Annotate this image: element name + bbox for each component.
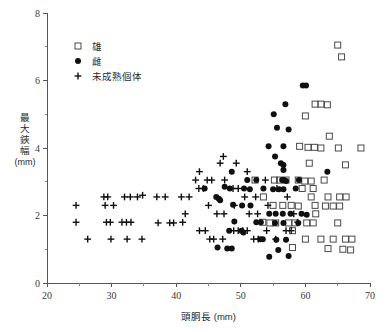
data-point <box>244 177 250 183</box>
data-point <box>340 246 346 252</box>
data-point <box>139 236 146 243</box>
data-point <box>73 202 80 209</box>
data-point <box>73 219 80 226</box>
axis-title-group: 頭胴長 (mm) <box>181 311 236 322</box>
data-point <box>348 247 354 253</box>
data-point <box>233 160 240 167</box>
data-point <box>182 210 189 217</box>
data-point <box>263 227 270 234</box>
data-point <box>84 236 91 243</box>
scatter-plot-figure: 02468203040506070 雄雌未成熟個体 頭胴長 (mm) 最 大 鋏… <box>0 0 387 332</box>
data-point <box>178 194 185 201</box>
data-point <box>318 236 324 242</box>
data-point <box>162 194 169 201</box>
data-point <box>324 102 330 108</box>
data-point <box>337 203 343 209</box>
data-point <box>325 246 331 252</box>
data-point <box>299 186 305 192</box>
data-point <box>313 211 319 217</box>
data-point <box>213 210 220 217</box>
data-point <box>260 194 266 200</box>
data-point <box>286 220 292 226</box>
legend-item-1[interactable]: 雄 <box>75 41 102 52</box>
data-point <box>258 219 264 225</box>
data-point <box>247 186 253 192</box>
data-point <box>275 247 281 253</box>
data-point <box>342 162 348 168</box>
data-point <box>266 254 272 260</box>
data-point <box>217 160 224 167</box>
data-point <box>286 126 292 132</box>
axis-group <box>43 13 370 287</box>
data-point <box>220 153 227 160</box>
data-point <box>222 184 228 190</box>
data-point <box>221 210 228 217</box>
legend-item-2[interactable]: 雌 <box>75 56 102 67</box>
y-axis-title-unit: (mm) <box>8 157 42 168</box>
data-point <box>283 237 289 243</box>
y-axis-title-chars: 最 大 鋏 幅 <box>8 112 42 156</box>
data-point <box>310 220 316 226</box>
data-point <box>303 83 309 89</box>
data-point <box>252 194 259 201</box>
data-point <box>102 202 109 209</box>
data-point <box>310 186 316 192</box>
data-point <box>253 177 259 183</box>
data-point <box>247 202 253 208</box>
data-point <box>318 145 324 151</box>
data-point <box>304 212 310 218</box>
data-point <box>202 227 209 234</box>
data-point <box>337 194 343 200</box>
data-point <box>318 101 324 107</box>
data-point <box>335 220 341 226</box>
data-point <box>104 194 111 201</box>
data-point <box>246 210 253 217</box>
data-point <box>308 194 314 200</box>
data-point <box>108 236 115 243</box>
data-point <box>282 101 288 107</box>
data-point <box>208 177 215 184</box>
data-point <box>254 210 261 217</box>
data-point <box>210 236 217 243</box>
data-point <box>302 178 308 184</box>
data-point <box>306 160 312 166</box>
data-point <box>217 197 223 203</box>
data-point <box>241 186 247 192</box>
plot-canvas: 02468203040506070 雄雌未成熟個体 頭胴長 (mm) <box>0 0 387 332</box>
data-point <box>215 245 221 251</box>
data-point <box>121 194 128 201</box>
data-point <box>330 236 336 242</box>
data-point <box>302 236 308 242</box>
data-point <box>241 194 248 201</box>
data-point <box>179 219 186 226</box>
data-point <box>312 101 318 107</box>
data-point <box>272 220 278 226</box>
data-point <box>280 186 286 192</box>
data-point <box>244 168 251 175</box>
data-point <box>186 194 193 201</box>
data-point <box>170 220 177 227</box>
data-point <box>196 227 203 234</box>
data-point <box>288 202 294 208</box>
y-tick-label: 8 <box>35 8 40 19</box>
data-point <box>110 202 117 209</box>
data-point <box>358 145 364 151</box>
legend-marker-open-square <box>75 43 81 49</box>
data-point <box>266 211 272 217</box>
data-point <box>322 203 328 209</box>
data-point <box>321 177 327 183</box>
data-point <box>302 113 308 119</box>
data-point <box>280 220 286 226</box>
data-point <box>293 186 299 192</box>
data-point <box>128 219 135 226</box>
y-tick-label: 0 <box>35 278 40 289</box>
data-point <box>267 220 273 226</box>
data-point <box>192 177 199 184</box>
data-point <box>312 202 318 208</box>
x-tick-label: 40 <box>171 290 181 301</box>
data-point <box>229 246 235 252</box>
legend-item-3[interactable]: 未成熟個体 <box>75 71 142 82</box>
data-point <box>289 245 295 251</box>
data-point <box>124 236 131 243</box>
legend-marker-plus <box>75 73 82 80</box>
